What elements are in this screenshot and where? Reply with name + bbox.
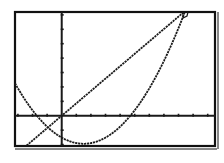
graph-plot	[0, 0, 224, 163]
calculator-graph-screen	[0, 0, 224, 163]
